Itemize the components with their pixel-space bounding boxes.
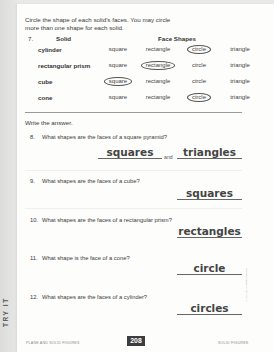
option-rectangle[interactable]: rectangle [138, 46, 178, 52]
instructions-line-2: more than one shape for each solid. [25, 24, 124, 32]
answer-11-field[interactable]: circle [177, 262, 242, 275]
solid-cylinder: cylinder [38, 46, 62, 53]
answer-12-field[interactable]: circles [177, 302, 242, 315]
option-triangle[interactable]: triangle [220, 46, 260, 52]
page-number: 208 [127, 336, 145, 346]
option-square[interactable]: square [98, 62, 138, 68]
question-8: 8.What shapes are the faces of a square … [30, 134, 167, 140]
answer-8b-field[interactable]: triangles [177, 146, 242, 159]
question-9: 9.What shapes are the faces of a cube? [30, 178, 140, 184]
question-10: 10.What shapes are the faces of a rectan… [30, 217, 172, 223]
section-divider [25, 112, 242, 113]
write-section-label: Write the answer. [25, 119, 73, 127]
try-it-tab: TRY IT [2, 292, 16, 332]
option-triangle[interactable]: triangle [220, 94, 260, 100]
option-square-circled[interactable]: square [98, 77, 138, 86]
answer-8a-field[interactable]: squares [98, 146, 162, 159]
question-11: 11.What shape is the face of a cone? [30, 255, 130, 261]
header-solid: Solid [56, 35, 71, 42]
header-face-shapes: Face Shapes [158, 35, 196, 42]
footer-right-text: SOLID FIGURES [218, 341, 248, 345]
option-square[interactable]: square [98, 46, 138, 52]
solid-cube: cube [38, 78, 52, 85]
option-circle-circled[interactable]: circle [179, 45, 219, 54]
question-separator [25, 170, 242, 171]
question-number-7: 7. [28, 35, 33, 42]
footer-left-text: PLANE AND SOLID FIGURES [26, 341, 80, 345]
option-rectangle-circled[interactable]: rectangle [138, 61, 178, 70]
option-triangle[interactable]: triangle [220, 78, 260, 84]
question-separator [25, 208, 242, 209]
solid-rectangular-prism: rectangular prism [38, 62, 90, 69]
option-rectangle[interactable]: rectangle [138, 94, 178, 100]
option-circle[interactable]: circle [179, 78, 219, 84]
option-square[interactable]: square [98, 94, 138, 100]
and-label: and [164, 154, 173, 160]
option-triangle[interactable]: triangle [220, 62, 260, 68]
answer-9-field[interactable]: squares [177, 187, 242, 200]
option-circle-circled[interactable]: circle [179, 93, 219, 102]
option-circle[interactable]: circle [179, 62, 219, 68]
answer-10-field[interactable]: rectangles [177, 225, 242, 238]
question-12: 12.What shapes are the faces of a cylind… [30, 294, 147, 300]
copyright-notice: © K12 Inc. All rights reserved. [245, 268, 248, 302]
option-rectangle[interactable]: rectangle [138, 78, 178, 84]
solid-cone: cone [38, 94, 52, 101]
